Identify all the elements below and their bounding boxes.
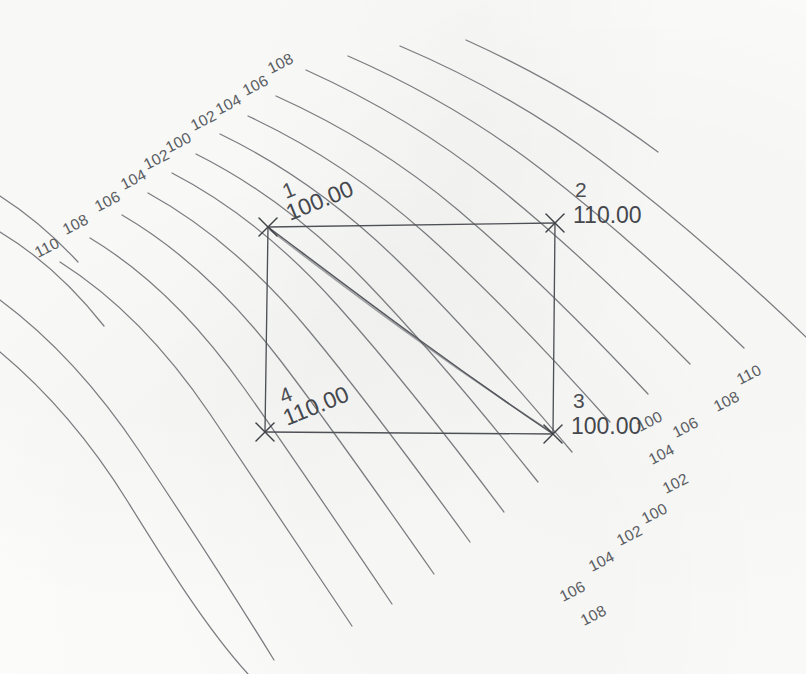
contour-label-108: 108 [265,50,296,77]
corner-labels: 1100.002110.003100.004110.00 [276,175,642,439]
contour-label-102: 102 [660,470,691,497]
contour-label-110: 110 [734,361,764,388]
contour-line [0,300,274,660]
contour-label-104: 104 [586,547,617,574]
quad-edge-bottom [265,432,553,434]
contour-label-104: 104 [213,90,244,117]
contour-label-100: 100 [163,128,194,155]
quad-edge-right [553,223,555,434]
corner-value-4: 110.00 [279,381,352,431]
corner-value-3: 100.00 [571,413,641,439]
corner-id-2: 2 [575,178,587,201]
corner-value-2: 110.00 [573,202,642,228]
quad-edge-left [265,227,268,432]
contour-plot: 110108106104102100102104106108 110108106… [0,0,806,674]
contour-lines [0,40,806,674]
contour-line [0,352,248,674]
contour-label-106: 106 [240,72,271,99]
quad-edge-top [268,223,555,227]
contour-label-104: 104 [646,440,677,467]
contour-labels-upper-left: 110108106104102100102104106108 [32,50,296,261]
contour-line [60,262,352,626]
contour-line [400,46,806,337]
contour-line [276,96,648,394]
contour-label-106: 106 [92,188,123,215]
drawing-sheet: 110108106104102100102104106108 110108106… [0,0,806,674]
contour-label-102: 102 [614,522,645,549]
contour-line [148,193,470,542]
contour-label-106: 106 [670,414,701,441]
contour-label-108: 108 [578,602,609,629]
contour-label-104: 104 [118,165,149,192]
corner-value-1: 100.00 [282,175,357,225]
contour-label-108: 108 [711,388,742,415]
contour-line [122,215,434,574]
contour-label-108: 108 [60,211,91,238]
contour-label-100: 100 [639,499,670,526]
contour-line [90,238,392,604]
contour-line [466,40,658,152]
contour-label-102: 102 [188,107,219,134]
contour-label-106: 106 [557,578,588,605]
contour-line [220,134,572,452]
contour-labels-lower-right: 110108106100104102100102104106108 [557,361,764,629]
contour-line [348,56,744,348]
corner-id-3: 3 [573,389,585,412]
